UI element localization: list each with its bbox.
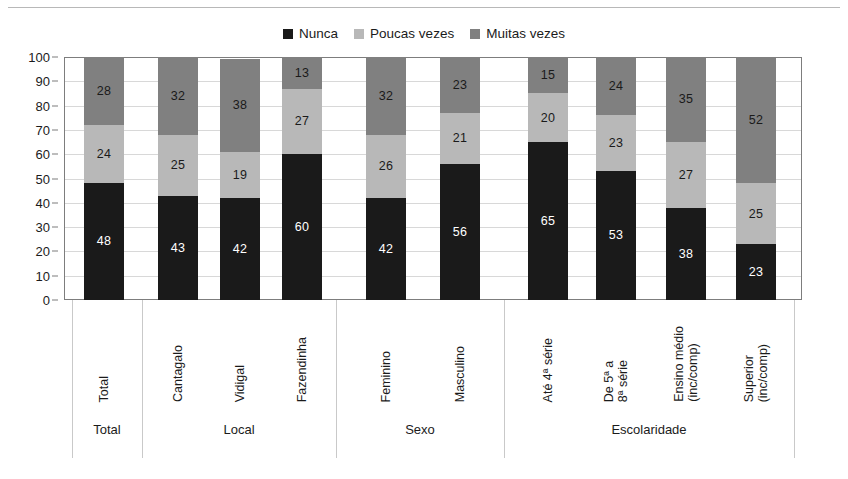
y-tick-label: 100 — [28, 50, 50, 65]
segment-value-label: 24 — [97, 148, 111, 161]
bar-vidigal[interactable]: 421938 — [220, 59, 260, 300]
bar-feminino[interactable]: 422632 — [366, 57, 406, 300]
bar-segment-muitas-vezes[interactable]: 15 — [528, 57, 568, 93]
segment-value-label: 19 — [233, 169, 247, 182]
bar-segment-muitas-vezes[interactable]: 24 — [596, 57, 636, 115]
legend-item-label: Poucas vezes — [370, 26, 454, 41]
y-tick-mark — [52, 57, 58, 58]
bar-segment-nunca[interactable]: 60 — [282, 154, 322, 300]
bar-segment-poucas-vezes[interactable]: 19 — [220, 152, 260, 198]
bar-total[interactable]: 482428 — [84, 57, 124, 300]
segment-value-label: 38 — [679, 248, 693, 261]
segment-value-label: 20 — [541, 112, 555, 125]
bar-superior[interactable]: 232552 — [736, 57, 776, 300]
bar-segment-poucas-vezes[interactable]: 24 — [84, 125, 124, 183]
bar-segment-poucas-vezes[interactable]: 20 — [528, 93, 568, 142]
segment-value-label: 52 — [749, 114, 763, 127]
segment-value-label: 60 — [295, 221, 309, 234]
segment-value-label: 65 — [541, 215, 555, 228]
stacked-bar-chart: NuncaPoucas vezesMuitas vezes 1009080706… — [0, 0, 848, 479]
segment-value-label: 26 — [379, 160, 393, 173]
bar-segment-nunca[interactable]: 43 — [158, 196, 198, 300]
bar-segment-nunca[interactable]: 53 — [596, 171, 636, 300]
segment-value-label: 28 — [97, 85, 111, 98]
segment-value-label: 48 — [97, 235, 111, 248]
y-tick-mark — [52, 227, 58, 228]
legend-item-nunca[interactable]: Nunca — [283, 26, 338, 41]
y-tick-label: 50 — [36, 171, 50, 186]
y-tick-label: 60 — [36, 147, 50, 162]
segment-value-label: 15 — [541, 69, 555, 82]
segment-value-label: 21 — [453, 132, 467, 145]
segment-value-label: 38 — [233, 99, 247, 112]
bar-segment-muitas-vezes[interactable]: 13 — [282, 57, 322, 89]
y-tick-label: 40 — [36, 195, 50, 210]
bar-segment-poucas-vezes[interactable]: 25 — [736, 183, 776, 244]
bar-segment-poucas-vezes[interactable]: 27 — [282, 89, 322, 155]
y-tick-mark — [52, 202, 58, 203]
y-tick-label: 20 — [36, 244, 50, 259]
bar-segment-nunca[interactable]: 23 — [736, 244, 776, 300]
segment-value-label: 23 — [749, 266, 763, 279]
bar-cantagalo[interactable]: 432532 — [158, 57, 198, 300]
bar-segment-poucas-vezes[interactable]: 27 — [666, 142, 706, 208]
bar-fazendinha[interactable]: 602713 — [282, 57, 322, 300]
bar-segment-muitas-vezes[interactable]: 35 — [666, 57, 706, 142]
segment-value-label: 27 — [679, 169, 693, 182]
bar-masculino[interactable]: 562123 — [440, 57, 480, 300]
segment-value-label: 42 — [233, 243, 247, 256]
bar-segment-nunca[interactable]: 56 — [440, 164, 480, 300]
y-tick-label: 0 — [43, 293, 50, 308]
y-tick-label: 10 — [36, 268, 50, 283]
legend-swatch-icon — [283, 29, 293, 39]
group-label-escolaridade: Escolaridade — [611, 422, 686, 437]
segment-value-label: 35 — [679, 93, 693, 106]
bar-segment-poucas-vezes[interactable]: 21 — [440, 113, 480, 164]
segment-value-label: 32 — [379, 90, 393, 103]
y-tick-label: 70 — [36, 122, 50, 137]
bar-segment-muitas-vezes[interactable]: 32 — [366, 57, 406, 135]
segment-value-label: 24 — [609, 80, 623, 93]
y-tick-label: 30 — [36, 220, 50, 235]
bar-segment-muitas-vezes[interactable]: 38 — [220, 59, 260, 151]
bar-segment-nunca[interactable]: 65 — [528, 142, 568, 300]
bar-segment-nunca[interactable]: 42 — [366, 198, 406, 300]
bar-segment-poucas-vezes[interactable]: 25 — [158, 135, 198, 196]
y-tick-mark — [52, 129, 58, 130]
bar-segment-nunca[interactable]: 48 — [84, 183, 124, 300]
y-tick-label: 90 — [36, 74, 50, 89]
segment-value-label: 13 — [295, 67, 309, 80]
y-tick-mark — [52, 178, 58, 179]
y-tick-mark — [52, 105, 58, 106]
segment-value-label: 23 — [453, 79, 467, 92]
segment-value-label: 25 — [171, 159, 185, 172]
y-tick-mark — [52, 251, 58, 252]
legend-swatch-icon — [354, 29, 364, 39]
bar-segment-nunca[interactable]: 38 — [666, 208, 706, 300]
bar-segment-muitas-vezes[interactable]: 28 — [84, 57, 124, 125]
bar-segment-muitas-vezes[interactable]: 23 — [440, 57, 480, 113]
bar-segment-poucas-vezes[interactable]: 23 — [596, 115, 636, 171]
bar-segment-nunca[interactable]: 42 — [220, 198, 260, 300]
y-tick-label: 80 — [36, 98, 50, 113]
bar-ensino-m-dio[interactable]: 382735 — [666, 57, 706, 300]
y-tick-mark — [52, 300, 58, 301]
group-label-total: Total — [93, 422, 120, 437]
y-tick-mark — [52, 154, 58, 155]
bar-segment-muitas-vezes[interactable]: 52 — [736, 57, 776, 183]
group-labels: TotalLocalSexoEscolaridade — [64, 422, 802, 452]
bar-at-4-s-rie[interactable]: 652015 — [528, 57, 568, 300]
segment-value-label: 42 — [379, 243, 393, 256]
legend-item-poucas-vezes[interactable]: Poucas vezes — [354, 26, 454, 41]
legend-item-label: Nunca — [299, 26, 338, 41]
bar-segment-muitas-vezes[interactable]: 32 — [158, 57, 198, 135]
segment-value-label: 25 — [749, 208, 763, 221]
legend-item-muitas-vezes[interactable]: Muitas vezes — [470, 26, 565, 41]
segment-value-label: 27 — [295, 115, 309, 128]
bar-de-5-a[interactable]: 532324 — [596, 57, 636, 300]
legend-item-label: Muitas vezes — [486, 26, 565, 41]
page-top-rule — [8, 7, 840, 8]
legend-swatch-icon — [470, 29, 480, 39]
bar-segment-poucas-vezes[interactable]: 26 — [366, 135, 406, 198]
segment-value-label: 23 — [609, 137, 623, 150]
